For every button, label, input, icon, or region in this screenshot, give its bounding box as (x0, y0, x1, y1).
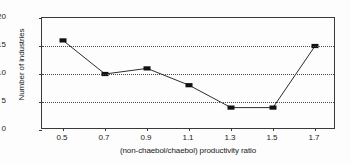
x-tick-mark (231, 128, 232, 131)
x-tick-mark (147, 128, 148, 131)
x-tick-mark (315, 128, 316, 131)
x-tick-mark (105, 128, 106, 131)
x-tick-label: 0.9 (131, 133, 161, 142)
y-tick-label: 0 (0, 124, 6, 133)
y-tick-label: 10 (0, 68, 6, 77)
x-tick-label: 1.1 (173, 133, 203, 142)
data-point-marker (186, 83, 193, 87)
y-tick-mark (39, 46, 42, 47)
y-tick-mark (39, 74, 42, 75)
x-tick-mark (63, 128, 64, 131)
data-point-marker (60, 38, 67, 42)
x-tick-mark (273, 128, 274, 131)
y-tick-mark (39, 102, 42, 103)
x-tick-mark (189, 128, 190, 131)
y-tick-mark (39, 18, 42, 19)
chart-figure: Number of industries (non-chaebol/chaebo… (0, 0, 350, 163)
x-tick-label: 1.5 (257, 133, 287, 142)
x-tick-label: 0.5 (47, 133, 77, 142)
gridline-y (42, 46, 334, 47)
plot-area (41, 17, 335, 129)
y-tick-label: 20 (0, 12, 6, 21)
y-axis-title: Number of industries (16, 2, 28, 127)
y-tick-label: 5 (0, 96, 6, 105)
gridline-y (42, 74, 334, 75)
x-tick-label: 0.7 (89, 133, 119, 142)
gridline-y (42, 102, 334, 103)
data-point-marker (144, 66, 151, 70)
x-tick-label: 1.7 (299, 133, 329, 142)
data-point-marker (228, 106, 235, 110)
y-tick-mark (39, 130, 42, 131)
x-axis-title: (non-chaebol/chaebol) productivity ratio (38, 146, 338, 155)
y-tick-label: 15 (0, 40, 6, 49)
x-tick-label: 1.3 (215, 133, 245, 142)
data-point-marker (270, 106, 277, 110)
